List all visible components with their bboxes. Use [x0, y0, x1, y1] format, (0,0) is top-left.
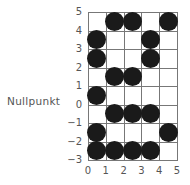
x-tick-label: 0 [83, 165, 93, 176]
filled-dot [87, 30, 106, 49]
filled-dot [123, 104, 142, 123]
filled-dot [87, 86, 106, 105]
y-tick-label: 2 [76, 63, 82, 73]
filled-dot [87, 49, 106, 68]
grid-line-horizontal [88, 160, 178, 161]
filled-dot [141, 49, 160, 68]
y-tick-label: 4 [76, 26, 82, 36]
filled-dot [123, 12, 142, 31]
filled-dot [87, 123, 106, 142]
filled-dot [105, 12, 124, 31]
filled-dot [141, 104, 160, 123]
y-tick-label: −2 [67, 137, 82, 147]
nullpunkt-label: Nullpunkt [7, 95, 60, 107]
x-tick-label: 5 [172, 165, 182, 176]
x-tick-label: 4 [154, 165, 164, 176]
y-tick-label: 5 [76, 7, 82, 17]
y-tick-label: 3 [76, 44, 82, 54]
filled-dot [105, 104, 124, 123]
filled-dot [159, 123, 178, 142]
filled-dot [123, 67, 142, 86]
x-tick-label: 1 [101, 165, 111, 176]
filled-dot [141, 141, 160, 160]
y-tick-label: 1 [76, 81, 82, 91]
y-tick-label: −1 [67, 118, 82, 128]
filled-dot [105, 141, 124, 160]
y-tick-label: −3 [67, 155, 82, 165]
filled-dot [141, 30, 160, 49]
filled-dot [105, 67, 124, 86]
filled-dot [87, 141, 106, 160]
dot-grid [88, 12, 177, 160]
y-tick-label: 0 [76, 100, 82, 110]
x-tick-label: 3 [136, 165, 146, 176]
x-tick-label: 2 [119, 165, 129, 176]
filled-dot [123, 141, 142, 160]
filled-dot [159, 12, 178, 31]
